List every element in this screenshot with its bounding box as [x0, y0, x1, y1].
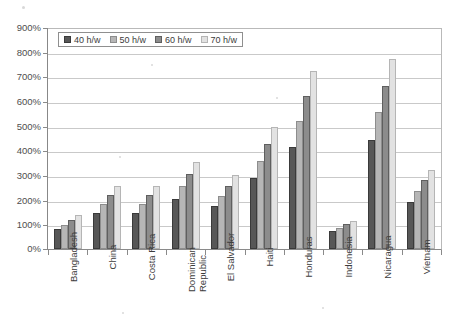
bar	[389, 59, 396, 249]
x-axis-label: Vietnam	[421, 240, 432, 275]
legend-label: 70 h/w	[211, 35, 238, 45]
bar	[264, 144, 271, 249]
y-tick-label: 500%	[0, 122, 41, 131]
bar	[382, 86, 389, 249]
legend-item-50hw: 50 h/w	[110, 35, 147, 45]
x-label-cell: China	[87, 255, 126, 325]
x-label-cell: Haiti	[244, 255, 283, 325]
y-tick-label: 900%	[0, 23, 41, 32]
x-axis-label: Bangladesh	[68, 232, 79, 282]
y-tick-label: 100%	[0, 220, 41, 229]
legend-label: 60 h/w	[165, 35, 192, 45]
bar	[100, 204, 107, 249]
bar	[257, 161, 264, 249]
bar	[93, 213, 100, 249]
bar	[310, 71, 317, 249]
x-axis-labels: BangladeshChinaCosta RicaDominican Repub…	[48, 255, 441, 325]
y-tick-label: 200%	[0, 196, 41, 205]
bar	[211, 206, 218, 249]
bar-group	[48, 29, 87, 249]
scan-artifact	[276, 97, 278, 99]
y-tick-label: 300%	[0, 171, 41, 180]
x-axis-label: Haiti	[264, 247, 275, 266]
bar-group	[244, 29, 283, 249]
y-tick-label: 400%	[0, 146, 41, 155]
scan-artifact	[122, 312, 124, 314]
bar-chart: 900% 800% 700% 600% 500% 400% 300% 200% …	[0, 0, 454, 325]
bar	[368, 140, 375, 249]
bar	[428, 170, 435, 249]
x-axis-label: China	[107, 245, 118, 270]
x-label-cell: Dominican Republic	[166, 255, 205, 325]
x-label-cell: Vietnam	[402, 255, 441, 325]
bar-group	[323, 29, 362, 249]
bar	[61, 225, 68, 249]
bar-groups	[48, 29, 441, 249]
bar-group	[402, 29, 441, 249]
x-axis-label: Nicaragua	[382, 235, 393, 278]
x-axis-label: Costa Rica	[146, 234, 157, 280]
bar	[172, 199, 179, 249]
x-label-cell: Costa Rica	[127, 255, 166, 325]
bar	[329, 231, 336, 249]
x-label-cell: Honduras	[284, 255, 323, 325]
x-label-cell: Bangladesh	[48, 255, 87, 325]
scan-artifact	[322, 307, 324, 309]
bar	[179, 186, 186, 249]
legend-swatch-icon	[64, 36, 71, 43]
y-tick-label: 600%	[0, 97, 41, 106]
bar-group	[87, 29, 126, 249]
y-axis: 900% 800% 700% 600% 500% 400% 300% 200% …	[0, 28, 45, 250]
chart-legend: 40 h/w 50 h/w 60 h/w 70 h/w	[58, 32, 243, 47]
legend-item-40hw: 40 h/w	[64, 35, 101, 45]
bar-group	[284, 29, 323, 249]
bar-group	[127, 29, 166, 249]
bar	[303, 96, 310, 249]
y-tick-label: 700%	[0, 72, 41, 81]
bar	[107, 195, 114, 249]
bar	[336, 228, 343, 249]
x-axis-label: El Salvador	[225, 233, 236, 282]
legend-item-70hw: 70 h/w	[201, 35, 238, 45]
legend-swatch-icon	[155, 36, 162, 43]
x-label-cell: El Salvador	[205, 255, 244, 325]
bar	[289, 147, 296, 249]
bar-group	[362, 29, 401, 249]
x-tick-mark	[441, 250, 442, 255]
x-axis-label: Honduras	[303, 236, 314, 277]
bar-group	[205, 29, 244, 249]
x-label-cell: Indonesia	[323, 255, 362, 325]
legend-swatch-icon	[201, 36, 208, 43]
bar	[54, 229, 61, 249]
y-tick-label: 0%	[0, 244, 41, 253]
bar	[296, 121, 303, 249]
bar	[132, 213, 139, 249]
bar-group	[166, 29, 205, 249]
y-tick-label: 800%	[0, 48, 41, 57]
bar	[250, 178, 257, 249]
bar	[271, 127, 278, 249]
legend-swatch-icon	[110, 36, 117, 43]
x-axis-label: Indonesia	[343, 236, 354, 277]
bar	[218, 196, 225, 249]
legend-label: 40 h/w	[74, 35, 101, 45]
scan-artifact	[119, 156, 121, 158]
scan-artifact	[22, 6, 25, 9]
scan-artifact	[151, 64, 153, 66]
legend-label: 50 h/w	[120, 35, 147, 45]
bar	[375, 112, 382, 249]
bar	[114, 186, 121, 249]
x-label-cell: Nicaragua	[362, 255, 401, 325]
legend-item-60hw: 60 h/w	[155, 35, 192, 45]
bar	[407, 202, 414, 249]
